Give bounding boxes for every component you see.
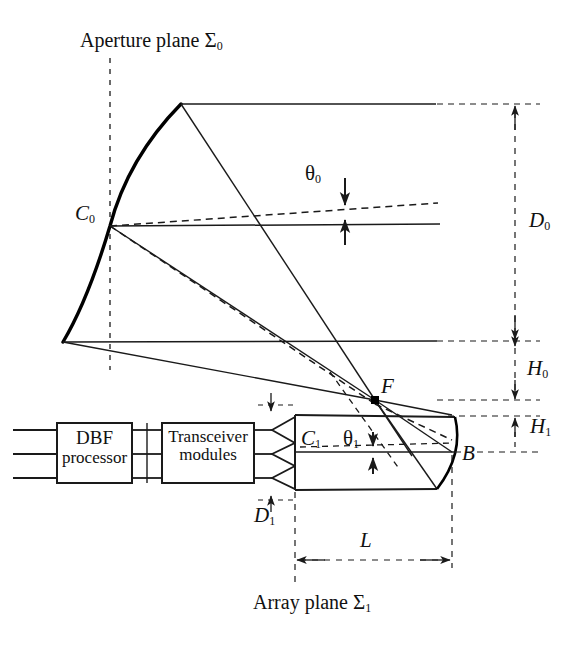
dbf-transceiver-link [132,423,162,483]
array-plane-text: Array plane [253,591,348,613]
point-label-B: B [462,443,475,464]
H0-subscript: 0 [542,367,548,381]
C1-base: C [301,426,315,450]
dimension-H0 [437,336,540,400]
B-base: B [462,441,475,465]
sigma-1-subscript: 1 [365,601,371,615]
theta0-base: θ [305,161,315,185]
F-base: F [381,374,394,398]
dbf-processor-line1: DBF [57,428,132,449]
array-plane-label: Array plane Σ1 [253,592,371,614]
array-waveguide-body [295,415,457,490]
dbf-processor-label: DBF processor [57,428,132,467]
dimension-label-D1: D1 [254,505,275,527]
sigma-0-symbol: Σ [204,28,216,52]
dimension-label-H1: H1 [530,416,551,438]
focus-point-marker [371,396,379,404]
feed-horn-elements [254,417,295,489]
angle-label-theta1: θ1 [343,428,359,450]
D0-base: D [529,208,544,232]
H0-base: H [527,356,542,380]
dimension-label-L: L [360,530,372,551]
aperture-plane-label: Aperture plane Σ0 [80,30,223,52]
dimension-label-H0: H0 [527,358,548,380]
aperture-plane-text: Aperture plane [80,29,199,51]
point-label-F: F [381,376,394,397]
ray-diagram-svg [0,0,577,645]
transceiver-modules-label: Transceiver modules [162,428,254,465]
dimension-label-D0: D0 [529,210,550,232]
point-label-C0: C0 [75,203,95,225]
L-base: L [360,528,372,552]
D1-base: D [254,503,269,527]
D0-subscript: 0 [544,219,550,233]
H1-base: H [530,414,545,438]
transceiver-modules-line1: Transceiver [162,428,254,446]
theta1-base: θ [343,426,353,450]
sigma-1-symbol: Σ [353,590,365,614]
theta0-subscript: 0 [315,172,321,186]
C0-subscript: 0 [89,212,95,226]
sigma-0-subscript: 0 [217,39,223,53]
C1-subscript: 1 [315,437,321,451]
dimension-D0 [437,104,540,341]
angle-label-theta0: θ0 [305,163,321,185]
point-label-C1: C1 [301,428,321,450]
theta1-subscript: 1 [353,437,359,451]
figure-canvas: Aperture plane Σ0 Array plane Σ1 DBF pro… [0,0,577,645]
input-feed-lines [13,430,57,478]
dbf-processor-line2: processor [57,449,132,467]
H1-subscript: 1 [545,425,551,439]
D1-subscript: 1 [269,514,275,528]
C0-base: C [75,201,89,225]
transceiver-modules-line2: modules [162,446,254,464]
dimension-L [295,455,452,588]
aperture-rays [63,104,440,342]
